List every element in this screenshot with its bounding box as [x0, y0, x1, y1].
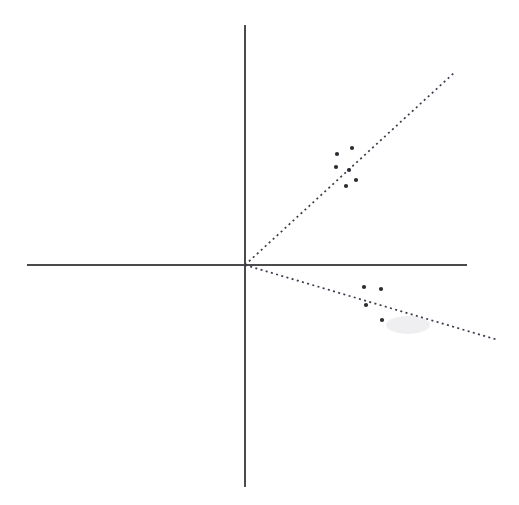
- data-point: [380, 318, 384, 322]
- data-point: [364, 303, 368, 307]
- data-point: [354, 178, 358, 182]
- paper-smudge-artifact: [386, 316, 430, 334]
- data-point: [362, 285, 366, 289]
- plot-canvas: [0, 0, 519, 505]
- data-point: [335, 152, 339, 156]
- data-point: [334, 165, 338, 169]
- data-point: [379, 287, 383, 291]
- plot-background: [0, 0, 519, 505]
- data-point: [350, 146, 354, 150]
- scatter-plot-figure: [0, 0, 519, 505]
- data-point: [347, 168, 351, 172]
- data-point: [344, 184, 348, 188]
